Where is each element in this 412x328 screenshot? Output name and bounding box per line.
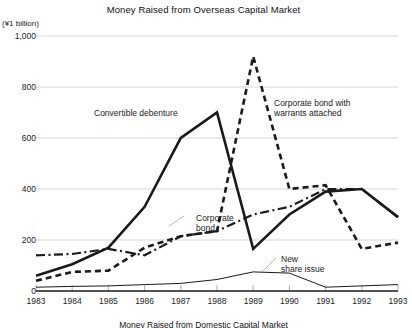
x-axis-tick-label: 1989 — [236, 296, 270, 306]
new-share-issue-label: New share issue — [281, 254, 324, 274]
y-axis-tick-label: 600 — [0, 133, 36, 143]
data-series-group — [36, 56, 398, 287]
y-axis-tick-label: 200 — [0, 235, 36, 245]
series-line — [36, 56, 398, 280]
x-axis-tick-label: 1988 — [200, 296, 234, 306]
x-axis-tick-label: 1987 — [164, 296, 198, 306]
bottom-caption: Money Raised from Domestic Capital Marke… — [0, 320, 407, 328]
x-axis-tick-label: 1984 — [55, 296, 89, 306]
x-axis-tick-label: 1990 — [272, 296, 306, 306]
corporate-bond-label: Corporate bond — [196, 213, 234, 233]
series-line — [36, 272, 398, 287]
x-axis-tick-label: 1992 — [345, 296, 379, 306]
y-axis-tick-label: 1,000 — [0, 31, 36, 41]
x-axis-tick-label: 1983 — [19, 296, 53, 306]
x-axis-tick-label: 1991 — [309, 296, 343, 306]
y-axis-tick-label: 800 — [0, 82, 36, 92]
y-axis-tick-label: 400 — [0, 184, 36, 194]
convertible-debenture-label: Convertible debenture — [94, 108, 178, 118]
corporate-bond-with-warrants-label: Corporate bond with warrants attached — [274, 98, 351, 118]
x-axis-tick-label: 1993 — [381, 296, 412, 306]
gridlines — [36, 36, 398, 240]
x-axis-tick-label: 1985 — [91, 296, 125, 306]
y-axis-tick-label: 0 — [0, 286, 36, 296]
x-axis-tick-label: 1986 — [128, 296, 162, 306]
